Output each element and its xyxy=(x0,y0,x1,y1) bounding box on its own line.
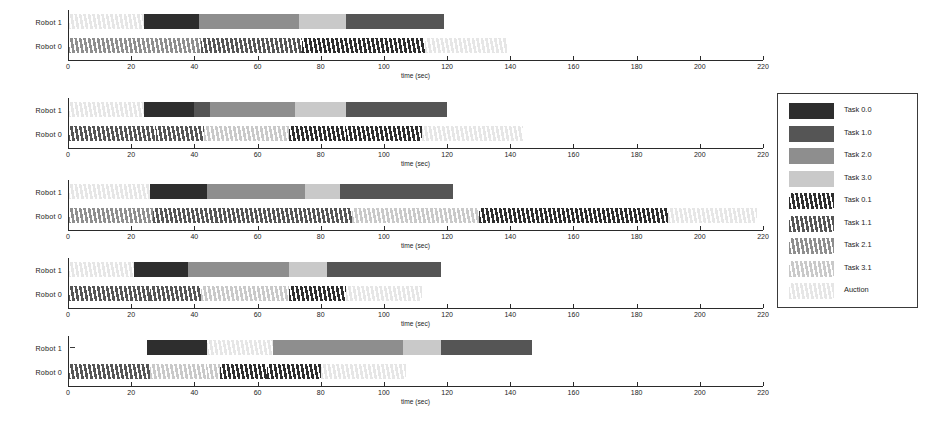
gantt-segment xyxy=(267,364,321,379)
x-axis-tick-label: 120 xyxy=(427,311,467,318)
gantt-segment xyxy=(302,38,425,53)
gantt-bar-robot-1 xyxy=(0,340,925,355)
x-axis-tick-label: 60 xyxy=(238,63,278,70)
legend-swatch xyxy=(789,216,834,232)
x-axis-tick xyxy=(68,226,69,230)
gantt-segment xyxy=(295,102,346,117)
legend-label: Task 0.1 xyxy=(844,195,872,204)
legend-item: Task 0.1 xyxy=(778,190,917,212)
x-axis-tick-label: 100 xyxy=(364,389,404,396)
legend-label: Task 2.1 xyxy=(844,240,872,249)
x-axis-tick xyxy=(321,226,322,230)
x-axis-tick-label: 180 xyxy=(617,311,657,318)
gantt-segment xyxy=(68,126,156,141)
x-axis-tick xyxy=(194,144,195,148)
x-axis-tick-label: 0 xyxy=(48,151,88,158)
legend-label: Task 1.1 xyxy=(844,218,872,227)
x-axis-tick-label: 220 xyxy=(743,63,783,70)
x-axis-tick-label: 80 xyxy=(301,389,341,396)
x-axis-tick xyxy=(321,144,322,148)
x-axis-title: time (sec) xyxy=(356,242,476,249)
x-axis-tick xyxy=(763,144,764,148)
gantt-segment xyxy=(327,262,346,277)
x-axis-tick-label: 20 xyxy=(111,311,151,318)
x-axis-tick xyxy=(194,304,195,308)
gantt-segment xyxy=(210,102,295,117)
x-axis-tick xyxy=(700,144,701,148)
gantt-segment xyxy=(68,184,150,199)
x-axis-tick-label: 200 xyxy=(680,63,720,70)
x-axis-tick xyxy=(510,304,511,308)
gantt-segment xyxy=(194,102,210,117)
x-axis-line xyxy=(68,386,763,387)
legend-item: Task 1.0 xyxy=(778,123,917,145)
legend-swatch xyxy=(789,283,834,299)
row-start-marker xyxy=(70,347,75,348)
x-axis-tick-label: 180 xyxy=(617,151,657,158)
gantt-segment xyxy=(199,14,299,29)
x-axis-tick-label: 200 xyxy=(680,311,720,318)
y-axis-spine xyxy=(68,10,69,60)
x-axis-tick-label: 160 xyxy=(553,389,593,396)
x-axis-tick-label: 60 xyxy=(238,389,278,396)
legend-swatch xyxy=(789,126,834,142)
x-axis-tick xyxy=(510,144,511,148)
x-axis-tick-label: 160 xyxy=(553,233,593,240)
x-axis-tick xyxy=(637,226,638,230)
x-axis-tick xyxy=(447,226,448,230)
x-axis-tick-label: 20 xyxy=(111,63,151,70)
legend-item: Task 1.1 xyxy=(778,213,917,235)
x-axis-tick xyxy=(573,144,574,148)
legend-swatch xyxy=(789,171,834,187)
x-axis-tick xyxy=(700,226,701,230)
x-axis-tick xyxy=(700,56,701,60)
x-axis-tick-label: 160 xyxy=(553,63,593,70)
gantt-segment xyxy=(150,286,201,301)
x-axis-tick-label: 100 xyxy=(364,63,404,70)
legend-swatch xyxy=(789,238,834,254)
x-axis-tick xyxy=(258,382,259,386)
gantt-segment xyxy=(441,340,533,355)
x-axis-tick-label: 140 xyxy=(490,389,530,396)
x-axis-line xyxy=(68,148,763,149)
legend-item: Task 3.0 xyxy=(778,168,917,190)
x-axis-tick xyxy=(258,226,259,230)
x-axis-tick-label: 200 xyxy=(680,151,720,158)
x-axis-tick-label: 120 xyxy=(427,63,467,70)
x-axis-line xyxy=(68,60,763,61)
gantt-bar-robot-0 xyxy=(0,38,925,53)
gantt-segment xyxy=(289,262,327,277)
x-axis-tick-label: 0 xyxy=(48,63,88,70)
legend-item: Task 2.1 xyxy=(778,235,917,257)
x-axis-tick-label: 140 xyxy=(490,63,530,70)
gantt-segment xyxy=(68,102,144,117)
x-axis-tick-label: 220 xyxy=(743,389,783,396)
x-axis-tick-label: 180 xyxy=(617,233,657,240)
gantt-segment xyxy=(346,102,419,117)
gantt-segment xyxy=(156,126,203,141)
gantt-segment xyxy=(150,184,207,199)
gantt-segment xyxy=(153,208,216,223)
x-axis-tick-label: 120 xyxy=(427,233,467,240)
gantt-segment xyxy=(144,14,199,29)
gantt-segment xyxy=(289,126,346,141)
x-axis-tick-label: 120 xyxy=(427,389,467,396)
x-axis-tick-label: 140 xyxy=(490,151,530,158)
x-axis-tick-label: 140 xyxy=(490,311,530,318)
x-axis-tick xyxy=(258,304,259,308)
x-axis-tick-label: 180 xyxy=(617,63,657,70)
x-axis-tick-label: 180 xyxy=(617,389,657,396)
gantt-segment xyxy=(479,208,669,223)
gantt-segment xyxy=(144,102,195,117)
gantt-segment xyxy=(346,14,425,29)
x-axis-tick xyxy=(384,226,385,230)
x-axis-tick-label: 40 xyxy=(174,389,214,396)
gantt-segment xyxy=(419,102,447,117)
x-axis-tick xyxy=(258,144,259,148)
legend-swatch xyxy=(789,193,834,209)
x-axis-tick-label: 40 xyxy=(174,63,214,70)
x-axis-tick xyxy=(447,56,448,60)
gantt-segment xyxy=(147,340,207,355)
gantt-segment xyxy=(188,262,289,277)
x-axis-line xyxy=(68,308,763,309)
